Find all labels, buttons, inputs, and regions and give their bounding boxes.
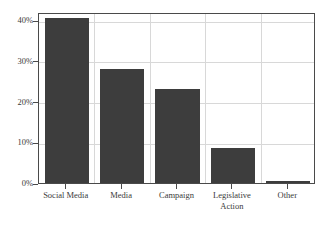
x-axis-tick-label-line: Legislative (213, 190, 251, 200)
x-axis-tick-label-line: Action (204, 201, 259, 212)
bar[interactable] (155, 89, 199, 183)
x-axis-tick-mark (176, 184, 177, 189)
bar[interactable] (100, 69, 144, 183)
x-axis-tick-label: Media (93, 190, 148, 201)
x-axis-tick-label-line: Social Media (43, 190, 88, 200)
x-axis-tick-mark (287, 184, 288, 189)
gridline-vertical (205, 14, 206, 183)
y-axis: 0%10%20%30%40% (0, 13, 33, 184)
x-axis-tick-label: Other (260, 190, 315, 201)
plot-area (38, 13, 315, 184)
x-axis-tick-label-line: Other (278, 190, 297, 200)
x-axis-tick-label: Social Media (38, 190, 93, 201)
y-axis-tick-label: 0% (3, 179, 33, 188)
x-axis-tick-label-line: Campaign (159, 190, 194, 200)
x-axis: Social MediaMediaCampaignLegislativeActi… (38, 190, 315, 230)
bar-chart: 0%10%20%30%40% Social MediaMediaCampaign… (0, 0, 332, 232)
x-axis-tick-label: LegislativeAction (204, 190, 259, 211)
x-axis-tick-label: Campaign (149, 190, 204, 201)
bar[interactable] (266, 181, 310, 183)
gridline-vertical (94, 14, 95, 183)
x-axis-tick-mark (121, 184, 122, 189)
y-axis-tick-label: 10% (3, 138, 33, 147)
y-axis-tick-label: 20% (3, 98, 33, 107)
bar[interactable] (211, 148, 255, 183)
x-axis-tick-label-line: Media (110, 190, 132, 200)
x-axis-tick-mark (231, 184, 232, 189)
gridline-vertical (150, 14, 151, 183)
bar[interactable] (45, 18, 89, 183)
y-axis-tick-label: 40% (3, 16, 33, 25)
y-axis-tick-label: 30% (3, 57, 33, 66)
x-axis-tick-mark (65, 184, 66, 189)
gridline-vertical (261, 14, 262, 183)
